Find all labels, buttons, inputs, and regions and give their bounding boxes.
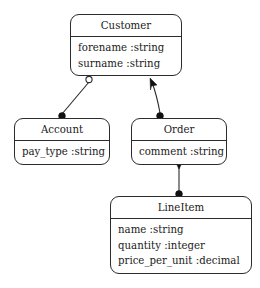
uml-class-customer[interactable]: Customer forename :string surname :strin… <box>70 14 182 76</box>
uml-class-lineitem[interactable]: LineItem name :string quantity :integer … <box>110 196 252 274</box>
attribute-row: forename :string <box>71 41 181 56</box>
association-line-customer-account <box>62 82 89 114</box>
class-name-order: Order <box>132 119 226 141</box>
uml-class-order[interactable]: Order comment :string <box>131 118 227 165</box>
attribute-row: price_per_unit :decimal <box>111 253 251 268</box>
uml-class-diagram: Customer forename :string surname :strin… <box>0 0 260 288</box>
uml-class-account[interactable]: Account pay_type :string <box>14 118 110 165</box>
class-name-customer: Customer <box>71 15 181 37</box>
class-name-lineitem: LineItem <box>111 197 251 219</box>
attribute-list-lineitem: name :string quantity :integer price_per… <box>111 219 251 273</box>
class-name-account: Account <box>15 119 109 141</box>
attribute-list-account: pay_type :string <box>15 141 109 164</box>
hollow-circle-marker-customer-account <box>86 76 92 82</box>
attribute-list-customer: forename :string surname :string <box>71 37 181 76</box>
attribute-row: surname :string <box>71 56 181 71</box>
attribute-row: quantity :integer <box>111 238 251 253</box>
attribute-list-order: comment :string <box>132 141 226 164</box>
attribute-row: name :string <box>111 223 251 238</box>
attribute-row: comment :string <box>132 145 226 160</box>
attribute-row: pay_type :string <box>15 145 109 160</box>
association-line-customer-order <box>152 82 160 113</box>
